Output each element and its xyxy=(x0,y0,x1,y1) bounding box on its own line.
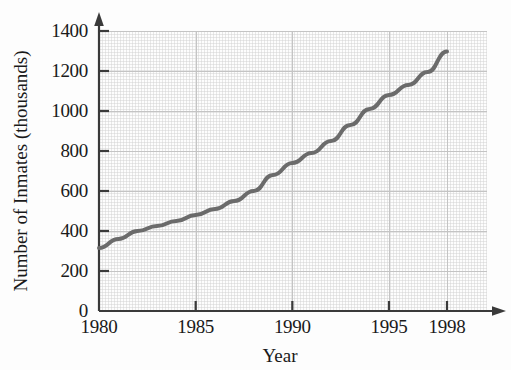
y-axis-title: Number of Inmates (thousands) xyxy=(10,21,32,321)
x-axis-title: Year xyxy=(240,345,320,367)
x-tick-label: 1980 xyxy=(59,316,139,338)
x-tick-label: 1998 xyxy=(407,316,487,338)
x-tick-label: 1990 xyxy=(252,316,332,338)
chart-figure: 0200400600800100012001400 19801985199019… xyxy=(0,0,511,370)
x-tick-label: 1985 xyxy=(156,316,236,338)
x-axis-tick-labels: 19801985199019951998 xyxy=(0,0,511,370)
